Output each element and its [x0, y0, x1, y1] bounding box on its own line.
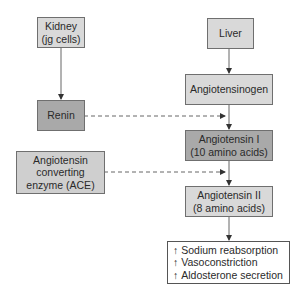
ace-line1: Angiotensin [33, 154, 88, 167]
up-arrow-icon: ↑ [173, 244, 178, 256]
node-liver: Liver [207, 18, 254, 49]
effect-item: ↑Vasoconstriction [173, 256, 258, 269]
kidney-sublabel: (jg cells) [41, 33, 80, 46]
node-angiotensin1: Angiotensin I (10 amino acids) [185, 130, 273, 161]
angiotensin2-sublabel: (8 amino acids) [193, 202, 265, 215]
angiotensin2-label: Angiotensin II [197, 189, 261, 202]
node-renin: Renin [37, 100, 85, 131]
liver-label: Liver [219, 27, 242, 40]
effect-item: ↑Aldosterone secretion [173, 269, 283, 282]
angiotensinogen-label: Angiotensinogen [190, 83, 268, 96]
angiotensin1-sublabel: (10 amino acids) [190, 146, 268, 159]
up-arrow-icon: ↑ [173, 256, 178, 268]
up-arrow-icon: ↑ [173, 269, 178, 281]
node-effects: ↑Sodium reabsorption ↑Vasoconstriction ↑… [167, 241, 290, 284]
ace-line3: enzyme (ACE) [26, 179, 94, 192]
ace-line2: converting [36, 166, 84, 179]
effect-item: ↑Sodium reabsorption [173, 244, 278, 257]
node-angiotensinogen: Angiotensinogen [185, 74, 273, 105]
kidney-label: Kidney [45, 20, 77, 33]
node-kidney: Kidney (jg cells) [37, 17, 85, 48]
node-angiotensin2: Angiotensin II (8 amino acids) [185, 186, 273, 217]
node-ace: Angiotensin converting enzyme (ACE) [16, 151, 105, 194]
angiotensin1-label: Angiotensin I [199, 133, 260, 146]
renin-label: Renin [47, 109, 74, 122]
